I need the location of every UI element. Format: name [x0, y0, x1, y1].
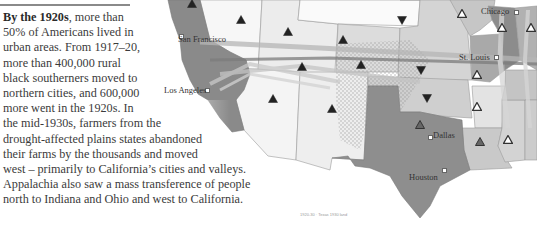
lead-phrase: By the 1920s: [3, 10, 69, 24]
triangle-gray-icon: [475, 137, 485, 146]
triangle-outline-icon: [472, 70, 482, 79]
section-rule: [0, 4, 130, 6]
map-caption: 1920-30 · Texas 1930 land: [300, 212, 347, 217]
triangle-outline-icon: [472, 102, 482, 111]
city-dot-icon: [514, 10, 519, 15]
triangle-up-icon: [356, 60, 366, 69]
triangle-outline-icon: [503, 135, 513, 144]
triangle-up-icon: [297, 62, 307, 71]
city-label: Chicago: [481, 6, 509, 16]
triangle-up-icon: [338, 35, 348, 44]
triangle-down-icon: [422, 94, 432, 103]
triangle-up-icon: [187, 0, 197, 8]
text-line: urban areas. From 1917–20,: [3, 40, 140, 54]
triangle-up-icon: [268, 94, 278, 103]
triangle-down-icon: [397, 16, 407, 25]
city-dot-icon: [494, 55, 499, 60]
city-label: Houston: [409, 172, 438, 182]
triangle-down-icon: [416, 66, 426, 75]
triangle-up-icon: [236, 15, 246, 24]
text-line: north to Indiana and Ohio and west to Ca…: [3, 192, 243, 206]
triangle-outline-icon: [526, 23, 536, 32]
triangle-up-icon: [327, 104, 337, 113]
triangle-up-icon: [283, 27, 293, 36]
text-line: , more than: [69, 10, 124, 24]
triangle-outline-icon: [497, 23, 507, 32]
text-line: 50% of Americans lived in: [3, 25, 134, 39]
city-label: San Francisco: [178, 34, 226, 44]
text-line: drought-affected plains states abandoned: [3, 132, 202, 146]
city-label: Dallas: [433, 130, 455, 140]
triangle-gray-icon: [415, 120, 425, 129]
text-line: west – primarily to California’s cities …: [3, 162, 246, 176]
text-line: more went in the 1920s. In: [3, 101, 134, 115]
text-line: Appalachia also saw a mass transference …: [3, 177, 250, 191]
city-label: Los Angeles: [164, 85, 206, 95]
triangle-outline-icon: [457, 9, 467, 18]
text-line: northern cities, and 600,000: [3, 86, 139, 100]
text-line: their farms by the thousands and moved: [3, 147, 198, 161]
text-line: the mid-1930s, farmers from the: [3, 116, 161, 130]
text-line: more than 400,000 rural: [3, 56, 121, 70]
text-line: black southerners moved to: [3, 71, 137, 85]
city-label: St. Louis: [459, 52, 490, 62]
city-dot-icon: [428, 135, 433, 140]
city-dot-icon: [442, 168, 447, 173]
